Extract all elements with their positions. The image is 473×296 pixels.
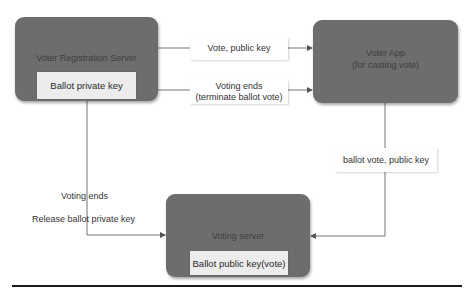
- voter-registration-server-node: Voter Registration Server Ballot private…: [15, 17, 158, 101]
- voter-app-subtitle: (for casting vote): [313, 60, 458, 71]
- edge-label-voting-ends: Voting ends: [61, 191, 108, 201]
- bottom-divider: [12, 285, 462, 287]
- voter-registration-server-title: Voter Registration Server: [15, 53, 158, 64]
- ballot-public-key-box: Ballot public key(vote): [190, 251, 288, 275]
- edge-label-text: ballot vote, public key: [343, 155, 429, 166]
- voting-server-node: Voting server Ballot public key(vote): [166, 194, 310, 277]
- edge-label-release-ballot-private-key: Release ballot private key: [32, 214, 135, 224]
- voter-app-node: Voter App (for casting vote): [313, 20, 458, 103]
- edge-label-line1: Voting ends: [215, 81, 262, 92]
- voter-app-title: Voter App: [313, 48, 458, 59]
- edge-label-ballot-vote-public-key: ballot vote, public key: [335, 148, 437, 172]
- voting-server-title: Voting server: [166, 231, 310, 242]
- edge-label-voting-ends-terminate: Voting ends (terminate ballot vote): [190, 80, 288, 104]
- ballot-private-key-box: Ballot private key: [37, 72, 136, 99]
- edge-label-text: Vote, public key: [207, 43, 270, 54]
- edge-label-line2: (terminate ballot vote): [195, 92, 282, 103]
- edge-label-vote-public-key: Vote, public key: [190, 37, 288, 60]
